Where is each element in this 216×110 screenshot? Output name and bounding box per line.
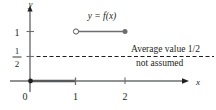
origin-tick-label: 0	[23, 91, 28, 102]
annotation-line-1: Average value 1/2	[131, 44, 200, 54]
function-label: y = f(x)	[87, 11, 117, 22]
annotation-line-2: not assumed	[136, 58, 183, 68]
y-tick-label-half: 1 2	[13, 46, 22, 69]
x-axis-arrow-icon	[182, 78, 189, 83]
open-endpoint-left	[73, 29, 78, 34]
closed-endpoint-origin	[28, 79, 33, 84]
average-value-figure: 1 1 2 0 1 2 y x y = f(x) Average value 1…	[0, 0, 216, 110]
x-tick-label-1: 1	[73, 91, 78, 102]
x-tick-label-2: 2	[123, 91, 128, 102]
x-axis-label: x	[195, 77, 200, 87]
fraction-denominator: 2	[15, 59, 20, 69]
fraction-numerator: 1	[15, 46, 20, 56]
y-tick-label-1: 1	[15, 27, 20, 38]
y-axis-label: y	[28, 0, 33, 9]
closed-endpoint-right	[123, 29, 128, 34]
